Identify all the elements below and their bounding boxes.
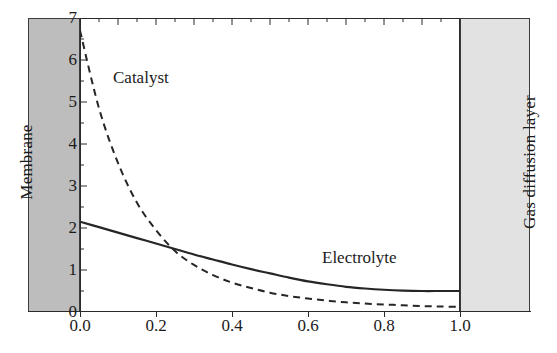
x-tick-label: 1.0: [435, 317, 485, 334]
electrolyte-curve: [80, 222, 460, 291]
x-tick-mark: [308, 312, 309, 317]
x-tick-label: 0.2: [131, 317, 181, 334]
x-tick-mark: [156, 312, 157, 317]
y-tick-label: 5: [51, 93, 77, 110]
x-tick-mark: [384, 312, 385, 317]
x-tick-label: 0.6: [283, 317, 333, 334]
x-tick-label: 0.4: [207, 317, 257, 334]
x-tick-mark: [80, 312, 81, 317]
x-tick-label: 0.8: [359, 317, 409, 334]
y-tick-marks: [80, 18, 87, 312]
x-tick-mark: [232, 312, 233, 317]
membrane-region-label: Membrane: [17, 102, 37, 222]
electrolyte-curve-label: Electrolyte: [322, 248, 397, 268]
gas-diffusion-layer-region-label: Gas diffusion layer: [520, 67, 540, 257]
y-tick-label: 6: [51, 51, 77, 68]
y-tick-label: 3: [51, 177, 77, 194]
x-axis-line: [28, 311, 531, 312]
catalyst-curve-label: Catalyst: [113, 68, 169, 88]
x-tick-mark: [460, 312, 461, 317]
y-tick-label: 1: [51, 261, 77, 278]
x-tick-label: 0.0: [55, 317, 105, 334]
y-tick-label: 4: [51, 135, 77, 152]
y-tick-label: 7: [51, 9, 77, 26]
plot-canvas: [80, 18, 460, 312]
top-tick-marks: [80, 18, 460, 25]
y-tick-label: 2: [51, 219, 77, 236]
scientific-figure: Membrane Gas diffusion layer 01234567 0.…: [0, 0, 557, 353]
